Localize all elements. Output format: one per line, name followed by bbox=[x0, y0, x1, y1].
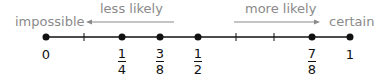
numerator: 3 bbox=[156, 47, 164, 60]
certain-label: certain bbox=[329, 14, 374, 29]
numerator: 1 bbox=[118, 47, 126, 60]
less-likely-label: less likely bbox=[100, 1, 163, 16]
left-arrow-icon bbox=[86, 20, 174, 25]
label-zero: 0 bbox=[36, 47, 56, 62]
label-one: 1 bbox=[340, 47, 360, 62]
label-one-quarter: 1 4 bbox=[112, 47, 132, 76]
denominator: 8 bbox=[156, 63, 164, 76]
denominator: 8 bbox=[308, 63, 316, 76]
label-one-half: 1 2 bbox=[188, 47, 208, 76]
numerator: 7 bbox=[308, 47, 316, 60]
label-three-eighths: 3 8 bbox=[150, 47, 170, 76]
right-arrow-icon bbox=[234, 20, 320, 25]
denominator: 4 bbox=[118, 63, 126, 76]
denominator: 2 bbox=[194, 63, 202, 76]
impossible-label: impossible bbox=[15, 14, 85, 29]
label-seven-eighths: 7 8 bbox=[302, 47, 322, 76]
more-likely-label: more likely bbox=[245, 1, 316, 16]
numerator: 1 bbox=[194, 47, 202, 60]
